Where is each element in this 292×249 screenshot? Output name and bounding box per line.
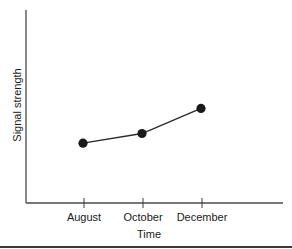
y-axis-title: Signal strength (11, 68, 23, 141)
data-point-october (137, 129, 146, 138)
x-axis-title: Time (137, 228, 161, 240)
x-tick-label: August (67, 211, 101, 223)
x-tick-label: October (123, 211, 162, 223)
data-point-december (196, 104, 205, 113)
x-tick-label: December (177, 211, 228, 223)
x-tick-labels: August October December (67, 211, 228, 223)
line-chart: August October December Time Signal stre… (0, 0, 292, 249)
data-point-august (78, 139, 87, 148)
